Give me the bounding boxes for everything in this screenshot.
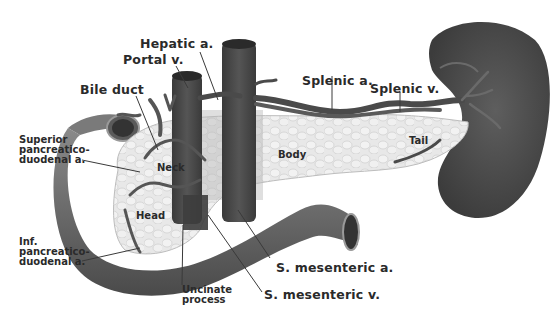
label-s-mesenteric-artery: S. mesenteric a.	[276, 262, 393, 275]
label-uncinate-process: Uncinate process	[182, 285, 232, 305]
label-portal-vein: Portal v.	[123, 54, 184, 67]
label-hepatic-artery: Hepatic a.	[140, 38, 214, 51]
label-splenic-artery: Splenic a.	[302, 75, 373, 88]
region-head: Head	[136, 211, 165, 221]
label-bile-duct: Bile duct	[80, 84, 144, 97]
jejunum-opening	[343, 214, 359, 250]
aorta	[222, 42, 256, 222]
label-splenic-vein: Splenic v.	[370, 83, 440, 96]
label-inferior-pancreaticoduodenal-artery: Inf. pancreatico- duodenal a.	[19, 237, 90, 267]
pancreas-diagram: Hepatic a. Portal v. Bile duct Splenic a…	[0, 0, 556, 312]
region-body: Body	[278, 150, 306, 160]
region-tail: Tail	[409, 136, 428, 146]
label-s-mesenteric-vein: S. mesenteric v.	[264, 289, 380, 302]
region-neck: Neck	[157, 163, 185, 173]
label-superior-pancreaticoduodenal-artery: Superior pancreatico- duodenal a.	[19, 135, 90, 165]
s-mesenteric-v-vessel	[183, 195, 208, 230]
